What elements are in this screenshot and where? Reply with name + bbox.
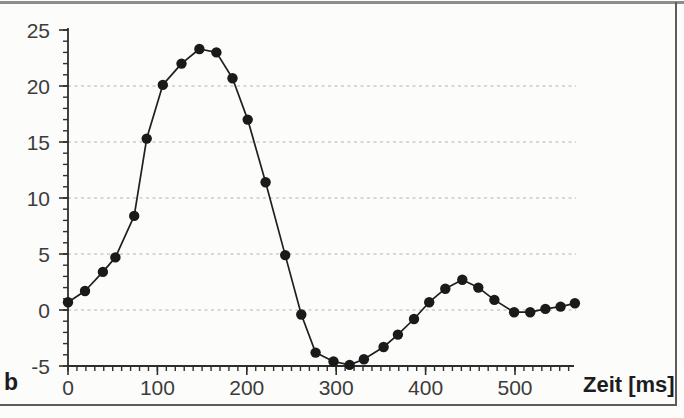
data-point-387ms xyxy=(409,314,419,324)
data-point-459ms xyxy=(473,282,483,292)
x-tick-label-0: 0 xyxy=(62,376,74,399)
data-point-551ms xyxy=(555,301,565,311)
data-point-404ms xyxy=(424,297,434,307)
data-point-422ms xyxy=(440,284,450,294)
data-point-534ms xyxy=(540,304,550,314)
y-tick-label--5: -5 xyxy=(31,355,50,378)
data-point-106ms xyxy=(158,80,168,90)
data-point-517ms xyxy=(525,307,535,317)
data-point-221ms xyxy=(260,177,270,187)
y-tick-label-25: 25 xyxy=(27,19,50,42)
data-point-53ms xyxy=(110,252,120,262)
data-point-369ms xyxy=(393,329,403,339)
data-point-315ms xyxy=(344,360,354,370)
data-point-477ms xyxy=(489,295,499,305)
frame-top-border xyxy=(0,1,684,4)
data-point-277ms xyxy=(310,347,320,357)
frame-right-border xyxy=(675,2,677,406)
panel-label: b xyxy=(4,371,18,394)
data-point-19ms xyxy=(80,286,90,296)
figure-panel: 2520151050-50100200300400500 b Zeit [ms] xyxy=(0,0,684,418)
data-point-147ms xyxy=(194,44,204,54)
data-point-353ms xyxy=(378,342,388,352)
data-curve xyxy=(68,49,575,365)
data-point-201ms xyxy=(243,114,253,124)
data-point-127ms xyxy=(176,58,186,68)
data-point-166ms xyxy=(211,47,221,57)
y-tick-label-10: 10 xyxy=(27,187,50,210)
x-axis-title: Zeit [ms] xyxy=(583,374,675,396)
data-point-74ms xyxy=(129,211,139,221)
data-point-297ms xyxy=(328,356,338,366)
data-point-331ms xyxy=(359,354,369,364)
y-tick-label-15: 15 xyxy=(27,131,50,154)
frame-bottom-border xyxy=(0,404,677,406)
data-point-88ms xyxy=(142,133,152,143)
x-tick-label-400: 400 xyxy=(408,376,443,399)
x-tick-label-100: 100 xyxy=(140,376,175,399)
data-point-243ms xyxy=(280,250,290,260)
x-tick-label-500: 500 xyxy=(497,376,532,399)
x-tick-label-200: 200 xyxy=(229,376,264,399)
data-point-184ms xyxy=(227,73,237,83)
chart-canvas: 2520151050-50100200300400500 xyxy=(0,0,684,418)
data-point-261ms xyxy=(296,309,306,319)
y-tick-label-20: 20 xyxy=(27,75,50,98)
data-point-567ms xyxy=(570,298,580,308)
data-point-39ms xyxy=(98,267,108,277)
data-point-0ms xyxy=(63,297,73,307)
y-tick-label-5: 5 xyxy=(38,243,50,266)
data-point-499ms xyxy=(509,307,519,317)
x-tick-label-300: 300 xyxy=(319,376,354,399)
data-point-441ms xyxy=(457,275,467,285)
y-tick-label-0: 0 xyxy=(38,299,50,322)
